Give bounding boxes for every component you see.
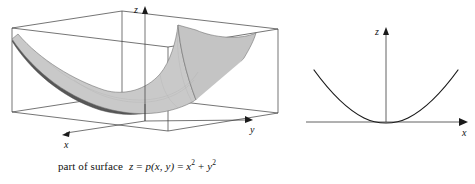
caption-z-var: z [129,160,133,172]
parabola-axes [306,32,462,122]
caption-args: (x, y) [151,160,174,172]
z-axis-arrowhead [383,27,389,35]
caption-equals-2: = [177,160,183,172]
surface-top [12,25,196,114]
caption-equals-1: = [136,160,142,172]
y-axis-label: y [249,124,255,135]
x-axis-arrowhead [459,118,468,126]
x-axis-label: x [461,127,467,138]
caption-surface: part of surfacez = p(x, y) = x2 + y2 [58,158,216,172]
y-axis-line [145,120,248,121]
z-axis-arrowhead [142,6,148,14]
paraboloid-svg: z x y [0,0,290,184]
caption-plus: + [198,160,204,172]
caption-term-2-exponent: 2 [212,158,216,167]
parabola-svg: z x [290,0,475,184]
z-axis-label: z [133,4,138,15]
paraboloid-surface [12,25,256,114]
paraboloid-surface-plot: z x y part of surfacez = p(x, y) = x2 + … [0,0,290,184]
figure-root: z x y part of surfacez = p(x, y) = x2 + … [0,0,475,184]
x-axis-label: x [63,139,69,150]
x-axis-arrowhead [62,131,70,137]
z-axis-label: z [374,26,379,37]
caption-term-1-exponent: 2 [191,158,195,167]
caption-prefix: part of surface [58,160,123,172]
parabola-cross-section-plot: z x z = p(x, 0) [290,0,475,184]
